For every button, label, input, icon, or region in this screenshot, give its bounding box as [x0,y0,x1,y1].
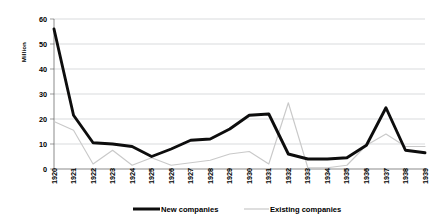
y-tick-label-40: 40 [39,65,47,74]
legend-label-existing-companies: Existing companies [270,205,341,214]
legend-label-new-companies: New companies [161,205,218,214]
line-chart-figure: Million 60 50 40 30 20 10 [0,0,437,224]
chart-legend: New companies Existing companies [133,205,341,214]
x-tick-label-1927: 1927 [186,168,195,184]
y-tick-label-60: 60 [39,15,47,24]
x-tick-label-1921: 1921 [69,168,78,184]
x-tick-label-1924: 1924 [128,167,137,184]
y-tick-label-0: 0 [43,165,47,174]
x-tick-label-1928: 1928 [206,168,215,184]
y-axis-ticks [50,19,54,169]
y-axis-title: Million [20,42,27,62]
x-tick-label-1929: 1929 [225,168,234,184]
x-tick-label-1923: 1923 [108,168,117,184]
x-tick-label-1925: 1925 [147,168,156,184]
y-tick-label-50: 50 [39,40,47,49]
x-tick-label-1935: 1935 [342,168,351,184]
x-tick-label-1926: 1926 [167,168,176,184]
gridlines [54,19,425,144]
x-tick-label-1933: 1933 [303,168,312,184]
x-tick-label-1920: 1920 [50,168,59,184]
series-line-existing-companies [54,103,425,168]
y-tick-label-10: 10 [39,140,47,149]
x-tick-label-1931: 1931 [264,168,273,184]
x-tick-labels: 1920192119221923192419251926192719281929… [50,167,430,184]
x-tick-label-1937: 1937 [382,168,391,184]
y-tick-label-20: 20 [39,115,47,124]
x-tick-label-1922: 1922 [89,168,98,184]
y-tick-label-30: 30 [39,90,47,99]
y-tick-labels: 60 50 40 30 20 10 0 [39,15,47,174]
x-tick-label-1936: 1936 [362,168,371,184]
x-tick-label-1939: 1939 [421,168,430,184]
x-tick-label-1932: 1932 [284,168,293,184]
chart-canvas: Million 60 50 40 30 20 10 [0,0,437,224]
x-tick-label-1938: 1938 [401,168,410,184]
x-tick-label-1934: 1934 [323,167,332,184]
x-tick-label-1930: 1930 [245,168,254,184]
